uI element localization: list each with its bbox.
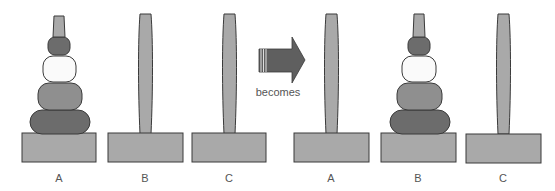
before-peg-c: C <box>192 14 266 184</box>
base <box>192 133 266 162</box>
peg-tip <box>413 14 425 37</box>
disk-small <box>48 37 70 55</box>
disk-white <box>43 56 76 82</box>
peg-label: A <box>55 172 63 184</box>
disk-medium <box>38 83 82 110</box>
before-peg-a: A <box>22 16 96 184</box>
arrow-label: becomes <box>256 86 301 98</box>
peg-label: C <box>499 172 507 184</box>
base <box>22 133 96 162</box>
after-peg-c: C <box>466 14 541 184</box>
disk-large <box>390 110 450 134</box>
peg-tip <box>53 16 65 37</box>
hanoi-diagram: A B C becomes A B C <box>0 0 555 191</box>
peg <box>497 14 511 134</box>
peg-label: A <box>327 172 335 184</box>
after-peg-b: B <box>381 14 456 184</box>
becomes-arrow: becomes <box>256 37 305 98</box>
before-peg-b: B <box>108 14 183 184</box>
peg <box>139 14 153 134</box>
disk-large <box>30 110 90 134</box>
base <box>466 134 541 163</box>
peg-label: B <box>414 172 421 184</box>
after-peg-a: A <box>294 14 369 184</box>
base <box>381 133 456 162</box>
disk-white <box>402 56 436 82</box>
peg <box>325 14 339 134</box>
peg-label: C <box>225 172 233 184</box>
peg-label: B <box>141 172 148 184</box>
peg <box>223 14 237 134</box>
base <box>294 133 369 162</box>
disk-medium <box>397 83 442 110</box>
disk-small <box>408 37 430 55</box>
base <box>108 133 183 162</box>
